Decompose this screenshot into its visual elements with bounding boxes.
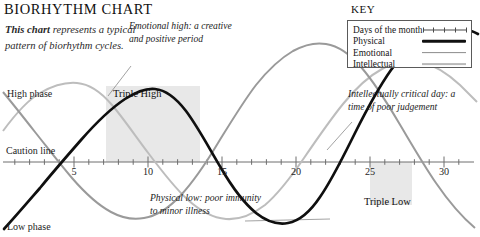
zone-label-high-phase: High phase [7,88,52,99]
key-sample-physical-line-icon [422,37,466,46]
key-label-physical: Physical [353,36,385,46]
axis-tick-label-30: 30 [439,166,449,177]
key-row-emotional: Emotional [353,47,466,58]
leader-physical-low [245,219,330,221]
zone-label-low-phase: Low phase [7,221,51,232]
biorhythm-chart-page: BIORHYTHM CHART This chart represents a … [0,0,480,237]
key-row-physical: Physical [353,36,466,47]
callout-physical-low: Physical low: poor immunity to minor ill… [150,192,270,217]
key-sample-days-axis-icon [423,25,467,34]
axis-tick-label-10: 10 [143,166,153,177]
key-heading: KEY [351,3,375,15]
key-label-days: Days of the month [353,25,423,35]
axis-tick-label-15: 15 [217,166,227,177]
callout-intellectually-critical: Intellectually critical day: a time of p… [348,88,474,113]
key-legend-box: Days of the month Physical Emotional Int… [347,20,472,68]
key-sample-intellectual-line-icon [422,60,466,69]
callout-emotional-high: Emotional high: a creative and positive … [129,20,233,45]
axis-tick-label-25: 25 [365,166,375,177]
band-label-triple-high: Triple High [113,88,161,99]
key-row-days: Days of the month [353,24,466,35]
axis-tick-label-20: 20 [291,166,301,177]
key-row-intellectual: Intellectual [353,59,466,70]
zone-label-caution-line: Caution line [6,145,55,156]
key-label-intellectual: Intellectual [353,59,395,69]
key-label-emotional: Emotional [353,48,392,58]
key-sample-emotional-line-icon [422,48,466,57]
axis-tick-label-5: 5 [71,166,76,177]
band-label-triple-low: Triple Low [364,196,411,207]
